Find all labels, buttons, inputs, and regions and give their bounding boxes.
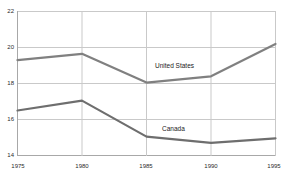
ytick-label-22: 22	[0, 8, 14, 14]
series-label-canada: Canada	[162, 125, 185, 132]
xtick-label-1990: 1990	[196, 163, 226, 169]
ytick-label-20: 20	[0, 44, 14, 50]
ytick-label-18: 18	[0, 80, 14, 86]
series-label-united-states: United States	[155, 62, 194, 69]
ytick-label-16: 16	[0, 116, 14, 122]
xtick-label-1980: 1980	[67, 163, 97, 169]
xtick-label-1985: 1985	[131, 163, 161, 169]
chart-plot-area	[0, 0, 284, 175]
line-chart: 22 20 18 16 14 1975 1980 1985 1990 1995 …	[0, 0, 284, 175]
ytick-label-14: 14	[0, 152, 14, 158]
xtick-label-1995: 1995	[259, 163, 284, 169]
xtick-label-1975: 1975	[3, 163, 33, 169]
